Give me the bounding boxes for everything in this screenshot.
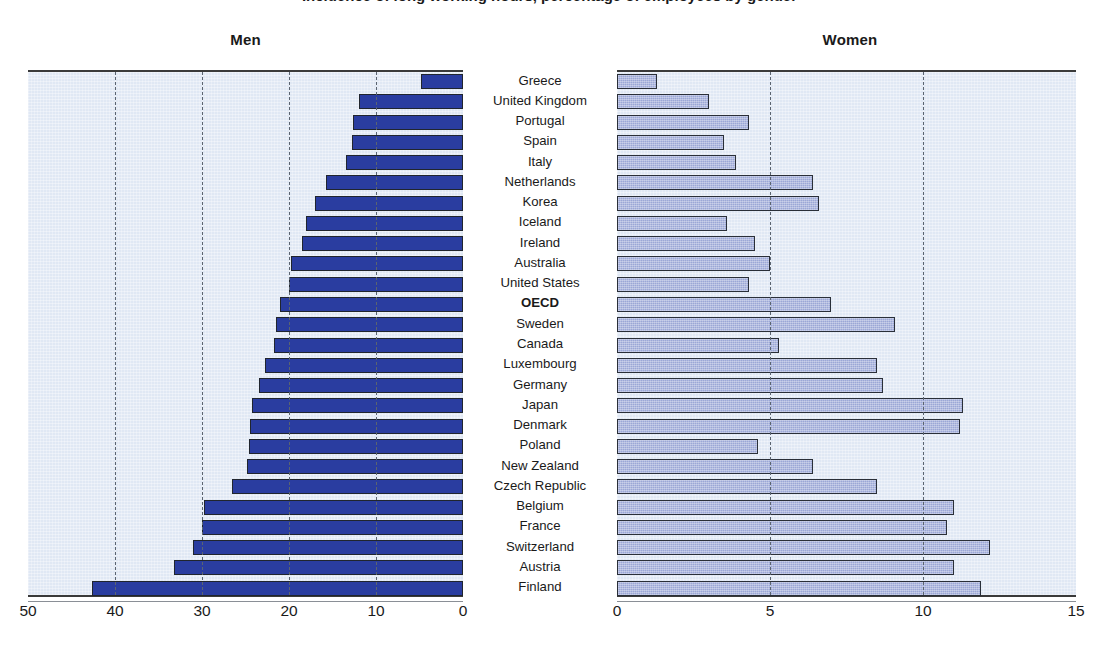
bar-men-greece[interactable]	[421, 74, 463, 89]
bar-women-united-kingdom[interactable]	[617, 94, 709, 109]
bar-women-canada[interactable]	[617, 338, 779, 353]
bar-women-czech-republic[interactable]	[617, 479, 877, 494]
bar-men-iceland[interactable]	[306, 216, 463, 231]
bar-row-women	[617, 275, 1076, 295]
x-tick-women-0: 0	[613, 603, 622, 619]
bar-row-men	[28, 133, 463, 153]
bar-row-women	[617, 234, 1076, 254]
bar-women-portugal[interactable]	[617, 115, 749, 130]
bar-men-portugal[interactable]	[353, 115, 463, 130]
bar-women-italy[interactable]	[617, 155, 736, 170]
category-label-germany: Germany	[463, 374, 617, 394]
bar-men-switzerland[interactable]	[193, 540, 463, 555]
category-label-austria: Austria	[463, 556, 617, 576]
category-label-netherlands: Netherlands	[463, 171, 617, 191]
x-tick-women-10: 10	[914, 603, 931, 619]
bar-men-italy[interactable]	[346, 155, 463, 170]
bar-women-poland[interactable]	[617, 439, 758, 454]
bar-rows-women	[617, 72, 1076, 595]
category-label-australia: Australia	[463, 252, 617, 272]
x-tick-men-10: 10	[367, 603, 384, 619]
bar-men-czech-republic[interactable]	[232, 479, 463, 494]
bar-women-finland[interactable]	[617, 581, 981, 596]
x-tick-men-30: 30	[193, 603, 210, 619]
bar-men-luxembourg[interactable]	[265, 358, 463, 373]
bar-women-new-zealand[interactable]	[617, 459, 813, 474]
bar-men-poland[interactable]	[249, 439, 463, 454]
bar-row-women	[617, 153, 1076, 173]
category-label-new-zealand: New Zealand	[463, 455, 617, 475]
bar-women-oecd[interactable]	[617, 297, 831, 312]
bar-men-new-zealand[interactable]	[247, 459, 463, 474]
bar-row-men	[28, 356, 463, 376]
bar-women-france[interactable]	[617, 520, 947, 535]
bar-row-women	[617, 214, 1076, 234]
bar-women-japan[interactable]	[617, 398, 963, 413]
bar-row-women	[617, 538, 1076, 558]
bar-row-men	[28, 275, 463, 295]
bar-men-canada[interactable]	[274, 338, 463, 353]
category-label-japan: Japan	[463, 394, 617, 414]
bar-men-oecd[interactable]	[280, 297, 463, 312]
bar-women-luxembourg[interactable]	[617, 358, 877, 373]
bar-row-men	[28, 234, 463, 254]
bar-women-greece[interactable]	[617, 74, 657, 89]
bar-row-men	[28, 396, 463, 416]
bar-men-netherlands[interactable]	[326, 175, 463, 190]
bar-row-women	[617, 457, 1076, 477]
bar-row-men	[28, 579, 463, 599]
bar-men-austria[interactable]	[174, 560, 463, 575]
category-label-poland: Poland	[463, 435, 617, 455]
category-label-canada: Canada	[463, 334, 617, 354]
bar-row-men	[28, 498, 463, 518]
bar-row-men	[28, 92, 463, 112]
bar-men-sweden[interactable]	[276, 317, 463, 332]
bar-row-women	[617, 133, 1076, 153]
axis-baseline-women	[617, 601, 1076, 602]
bar-women-sweden[interactable]	[617, 317, 895, 332]
bar-row-women	[617, 92, 1076, 112]
bar-women-united-states[interactable]	[617, 277, 749, 292]
bar-row-women	[617, 254, 1076, 274]
bar-row-women	[617, 437, 1076, 457]
axis-baseline-men	[28, 601, 463, 602]
category-label-ireland: Ireland	[463, 232, 617, 252]
x-tick-women-5: 5	[766, 603, 775, 619]
bar-women-belgium[interactable]	[617, 500, 954, 515]
category-label-portugal: Portugal	[463, 111, 617, 131]
bar-row-men	[28, 376, 463, 396]
bar-men-belgium[interactable]	[204, 500, 463, 515]
bar-women-australia[interactable]	[617, 256, 770, 271]
bar-men-france[interactable]	[202, 520, 463, 535]
bar-row-men	[28, 254, 463, 274]
bar-men-denmark[interactable]	[250, 419, 463, 434]
bar-women-germany[interactable]	[617, 378, 883, 393]
bar-women-denmark[interactable]	[617, 419, 960, 434]
bar-row-women	[617, 315, 1076, 335]
plot-area-women	[617, 70, 1076, 597]
bar-women-spain[interactable]	[617, 135, 724, 150]
category-label-iceland: Iceland	[463, 212, 617, 232]
bar-women-austria[interactable]	[617, 560, 954, 575]
bar-women-netherlands[interactable]	[617, 175, 813, 190]
bar-row-women	[617, 173, 1076, 193]
bar-women-korea[interactable]	[617, 196, 819, 211]
bar-men-united-kingdom[interactable]	[359, 94, 463, 109]
bar-row-men	[28, 518, 463, 538]
gridline-women-10	[923, 72, 924, 595]
x-tick-men-20: 20	[280, 603, 297, 619]
bar-men-korea[interactable]	[315, 196, 463, 211]
bar-women-switzerland[interactable]	[617, 540, 990, 555]
bar-row-men	[28, 153, 463, 173]
dual-bar-chart: GreeceUnited KingdomPortugalSpainItalyNe…	[0, 0, 1099, 655]
bar-men-finland[interactable]	[92, 581, 463, 596]
bar-men-ireland[interactable]	[302, 236, 463, 251]
bar-row-women	[617, 336, 1076, 356]
category-label-korea: Korea	[463, 192, 617, 212]
bar-row-men	[28, 457, 463, 477]
bar-men-spain[interactable]	[352, 135, 463, 150]
bar-women-ireland[interactable]	[617, 236, 755, 251]
x-axis-men: 50403020100	[0, 601, 500, 627]
bar-women-iceland[interactable]	[617, 216, 727, 231]
bar-men-japan[interactable]	[252, 398, 463, 413]
